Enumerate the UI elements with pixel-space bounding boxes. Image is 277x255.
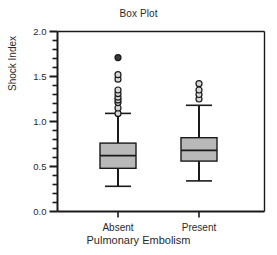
y-axis-tick-label: 2.0: [33, 26, 46, 37]
outlier-point: [196, 87, 202, 93]
outlier-point: [115, 87, 121, 93]
x-axis-category-label: Present: [182, 222, 217, 233]
y-axis-tick-label: 0.5: [33, 161, 46, 172]
outlier-point: [115, 72, 121, 78]
outlier-point: [115, 55, 121, 61]
box-iqr: [181, 138, 217, 161]
x-axis-category-label: Absent: [102, 222, 133, 233]
box-plot-group: [100, 55, 136, 187]
box-plot-figure: Box Plot Shock Index Pulmonary Embolism …: [0, 0, 277, 255]
plot-area: 0.00.51.01.52.0AbsentPresent: [0, 0, 277, 255]
y-axis-tick-label: 1.5: [33, 71, 46, 82]
y-axis-tick-label: 0.0: [33, 206, 46, 217]
outlier-point: [196, 81, 202, 87]
box-plot-group: [181, 81, 217, 181]
y-axis-tick-label: 1.0: [33, 116, 46, 127]
